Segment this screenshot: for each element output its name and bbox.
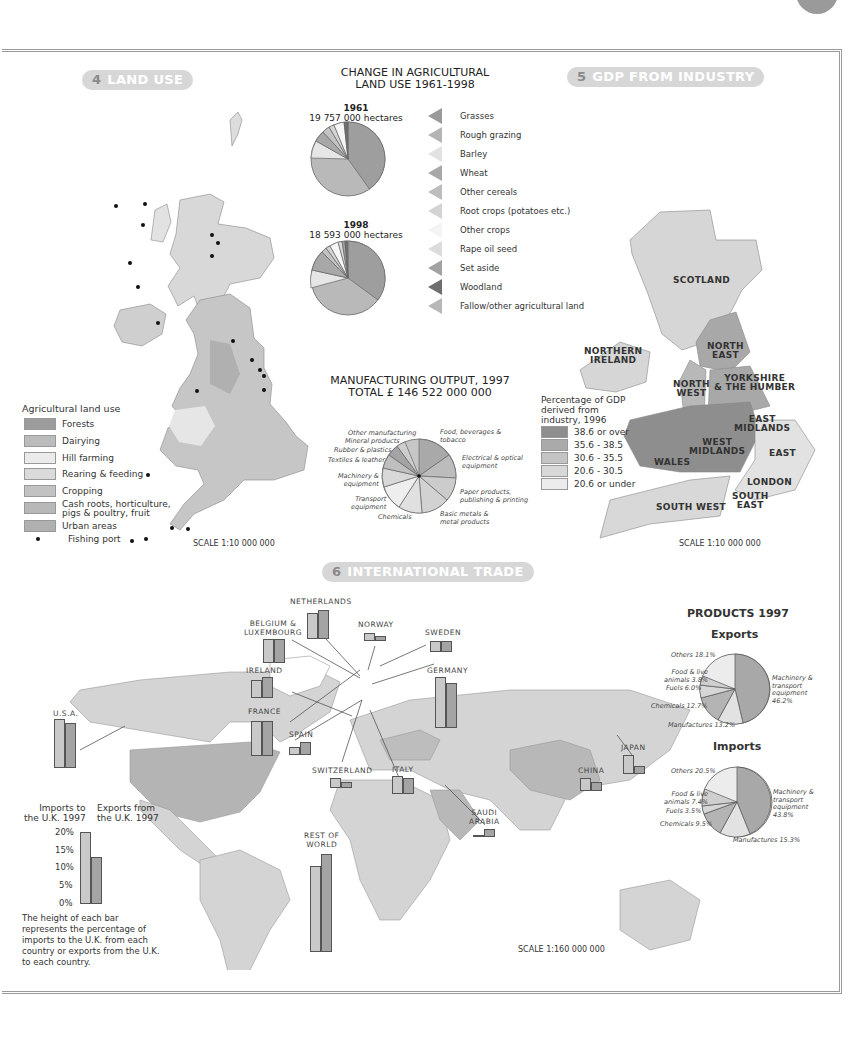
bars-belgium [263, 638, 285, 663]
region-line: IRELAND [590, 355, 636, 365]
exports-machinery: Machinery &transportequipment46.2% [772, 675, 813, 705]
bars-usa [54, 718, 76, 768]
swatch-gdp-5 [541, 478, 568, 490]
tick-15: 15% [55, 845, 74, 855]
label-line: equipment [344, 480, 379, 488]
manufacturing-title-line2: TOTAL £ 146 522 000 000 [310, 387, 530, 399]
bar-exports [262, 677, 273, 698]
bars-sweden [430, 640, 452, 652]
tick-0: 0% [59, 898, 73, 908]
bar-imports [392, 776, 403, 794]
section-title: GDP FROM INDUSTRY [592, 69, 754, 84]
region-north-west: NORTHWEST [673, 380, 710, 398]
imports-chemicals: Chemicals 9.5% [660, 821, 712, 829]
exports-chemicals: Chemicals 12.7% [651, 703, 707, 711]
swatch-dairying [24, 435, 56, 447]
region-line: WEST [676, 388, 706, 398]
label-line: equipment [462, 462, 497, 470]
bar-exports [375, 636, 386, 641]
label-line: Exports from [97, 803, 155, 813]
label-japan: JAPAN [621, 744, 646, 753]
key-note: The height of each bar represents the pe… [22, 913, 162, 968]
label-electrical: Electrical & opticalequipment [462, 455, 523, 470]
legend-label: Urban areas [62, 521, 117, 531]
bar-exports [321, 854, 332, 952]
bar-exports [446, 683, 457, 728]
region-line: MIDLANDS [689, 446, 745, 456]
label-italy: ITALY [392, 766, 414, 775]
label-line: Imports to [39, 803, 85, 813]
bars-france [251, 719, 273, 756]
section-5-heading: 5GDP FROM INDUSTRY [567, 67, 764, 87]
key-bar-exports [91, 857, 102, 904]
legend-label: 38.6 or over [574, 427, 629, 437]
bars-saudi-arabia [473, 828, 495, 837]
gdp-scale: SCALE 1:10 000 000 [679, 539, 761, 548]
bars-japan [623, 754, 645, 774]
swatch-hill-farming [24, 452, 56, 464]
bars-italy [392, 775, 414, 794]
agri-title-line2: LAND USE 1961-1998 [300, 79, 530, 91]
label-mineral: Mineral products [345, 438, 400, 446]
tick-10: 10% [55, 862, 74, 872]
label-line: equipment [351, 503, 386, 511]
region-south-west: SOUTH WEST [656, 503, 726, 512]
bar-imports [263, 639, 274, 663]
imports-others: Others 20.5% [671, 768, 716, 776]
gdp-legend-item: 30.6 - 35.5 [541, 452, 623, 464]
label-germany: GERMANY [427, 667, 468, 676]
label-transport: Transportequipment [351, 496, 386, 511]
region-wales: WALES [654, 458, 690, 467]
region-line: & THE HUMBER [714, 382, 795, 392]
bars-rest-of-world [310, 853, 332, 952]
bars-ireland [251, 677, 273, 698]
pie-1998 [310, 240, 386, 316]
triangle-icon [428, 108, 442, 124]
region-line: MIDLANDS [734, 423, 790, 433]
legend-label: 20.6 - 30.5 [574, 466, 623, 476]
gdp-legend-item: 38.6 or over [541, 426, 629, 438]
label-line: tobacco [440, 436, 466, 444]
bars-norway [364, 631, 386, 641]
legend-rape-oil-seed: Rape oil seed [428, 241, 517, 257]
bar-imports [580, 778, 591, 791]
triangle-icon [428, 279, 442, 295]
legend-other-cereals: Other cereals [428, 184, 517, 200]
label-line: ARABIA [469, 817, 500, 826]
triangle-icon [428, 165, 442, 181]
label-line: metal products [440, 518, 489, 526]
exports-food: Food & liveanimals 3.8% [664, 669, 708, 684]
gdp-legend-title: Percentage of GDP derived from industry,… [541, 395, 625, 425]
bar-imports [430, 641, 441, 652]
region-line: EAST [737, 500, 764, 510]
region-yorkshire: YORKSHIRE& THE HUMBER [714, 374, 795, 392]
bar-exports [484, 829, 495, 837]
label-line: Chemicals [378, 513, 412, 521]
bars-netherlands [307, 608, 329, 639]
region-northern-ireland: NORTHERNIRELAND [584, 347, 642, 365]
bar-imports [473, 835, 484, 837]
label-line: the U.K. 1997 [24, 813, 86, 823]
label-rest-of-world: REST OFWORLD [304, 832, 339, 849]
legend-label: Forests [62, 419, 94, 429]
legend-label: Hill farming [62, 453, 114, 463]
bar-imports [54, 719, 65, 768]
swatch-cropping [24, 485, 56, 497]
bar-exports [634, 766, 645, 774]
bar-exports [403, 778, 414, 794]
bar-imports [251, 680, 262, 698]
legend-label: Grasses [460, 111, 494, 121]
triangle-icon [428, 260, 442, 276]
label-netherlands: NETHERLANDS [290, 598, 352, 607]
legend-label: Woodland [460, 282, 502, 292]
imports-fuels: Fuels 3.5% [666, 808, 701, 816]
legend-woodland: Woodland [428, 279, 502, 295]
bar-imports [251, 721, 262, 756]
section-4-heading: 4LAND USE [82, 70, 193, 90]
legend-cropping: Cropping [24, 485, 103, 497]
legend-hill-farming: Hill farming [24, 452, 114, 464]
bars-germany [435, 676, 457, 728]
exports-pie [699, 653, 771, 725]
legend-label: Root crops (potatoes etc.) [460, 206, 570, 216]
label-metals: Basic metals &metal products [440, 511, 489, 526]
